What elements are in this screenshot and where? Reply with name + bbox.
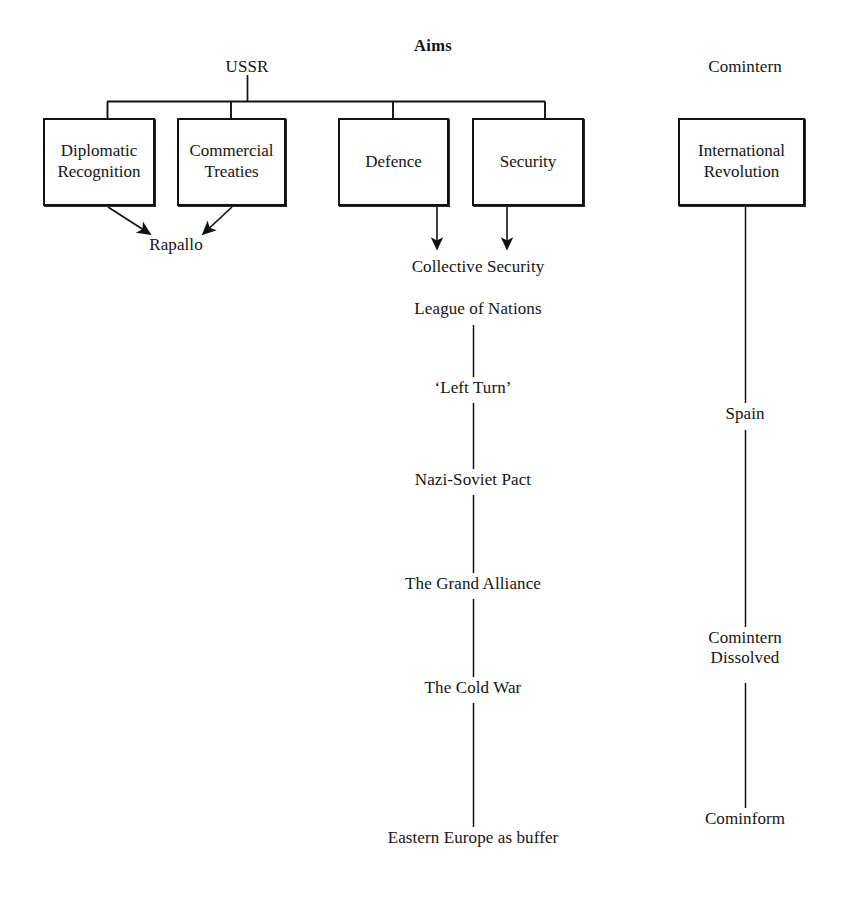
timeline-item-nazi-soviet-pact: Nazi-Soviet Pact	[415, 470, 531, 490]
page-title: Aims	[414, 36, 452, 55]
diagram-canvas: Aims USSR Comintern Diplomatic Recogniti…	[0, 0, 852, 898]
label-rapallo: Rapallo	[149, 235, 203, 255]
heading-ussr: USSR	[226, 57, 269, 77]
box-diplomatic-recognition[interactable]: Diplomatic Recognition	[43, 118, 155, 206]
box-defence-label: Defence	[340, 152, 447, 173]
box-diplomatic-recognition-label: Diplomatic Recognition	[45, 141, 153, 182]
label-collective-security: Collective Security	[412, 257, 545, 277]
heading-comintern: Comintern	[708, 57, 782, 77]
arrow-diplomatic-to-rapallo	[108, 207, 150, 234]
timeline-item-left-turn: ‘Left Turn’	[434, 378, 511, 398]
timeline-item-eastern-europe-buffer: Eastern Europe as buffer	[388, 828, 559, 848]
comintern-item-cominform: Cominform	[705, 809, 785, 829]
box-security-label: Security	[474, 152, 582, 173]
box-security[interactable]: Security	[472, 118, 584, 206]
arrow-commercial-to-rapallo	[203, 207, 232, 234]
timeline-item-cold-war: The Cold War	[425, 678, 522, 698]
box-defence[interactable]: Defence	[338, 118, 449, 206]
box-international-revolution[interactable]: International Revolution	[678, 118, 805, 206]
box-commercial-treaties-label: Commercial Treaties	[179, 141, 284, 182]
box-commercial-treaties[interactable]: Commercial Treaties	[177, 118, 286, 206]
box-international-revolution-label: International Revolution	[680, 141, 803, 182]
comintern-item-comintern-dissolved: Comintern Dissolved	[708, 628, 782, 668]
timeline-item-league-of-nations: League of Nations	[414, 299, 541, 319]
comintern-item-spain: Spain	[725, 404, 764, 424]
timeline-item-grand-alliance: The Grand Alliance	[405, 574, 541, 594]
